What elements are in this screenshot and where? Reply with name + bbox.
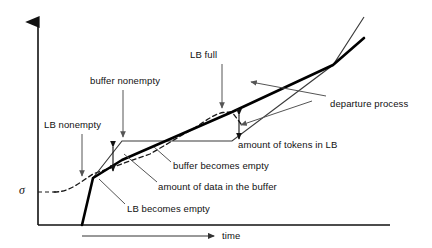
leaky-bucket-diagram: σ time LB nonempty buffer nonempty LB fu… [0,0,432,248]
tokens-in-lb-leader [241,101,312,125]
label-lb-nonempty: LB nonempty [44,120,101,130]
label-buffer-nonempty: buffer nonempty [90,76,160,86]
buffer-becomes-empty-leader [154,147,171,162]
lb-becomes-empty-leader [99,179,125,204]
label-departure-process: departure process [330,99,408,109]
label-buffer-becomes-empty: buffer becomes empty [173,161,269,171]
departure-process-thick-line [82,38,364,225]
amount-of-data-leader [124,154,157,182]
departure-process-leader [251,82,326,96]
label-amount-of-data-in-the-buffer: amount of data in the buffer [158,182,277,192]
sigma-axis-label: σ [19,184,25,196]
label-lb-full: LB full [190,50,217,60]
label-amount-of-tokens-in-lb: amount of tokens in LB [238,140,337,150]
label-lb-becomes-empty: LB becomes empty [127,204,210,214]
time-axis-label: time [222,231,240,241]
